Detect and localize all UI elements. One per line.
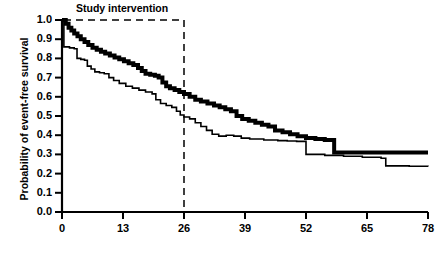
annotation-label: Study intervention — [76, 2, 168, 14]
x-tick-label: 39 — [230, 223, 260, 234]
y-tick-label: 0.6 — [22, 91, 52, 102]
kaplan-meier-chart: Probability of event-free survival 0.00.… — [0, 0, 442, 259]
y-tick-label: 0.8 — [22, 52, 52, 63]
annotation-layer — [62, 20, 184, 212]
y-tick-label: 0.9 — [22, 33, 52, 44]
y-tick-label: 0.0 — [22, 206, 52, 217]
plot-area — [0, 0, 442, 259]
y-tick-label: 1.0 — [22, 14, 52, 25]
x-tick-label: 0 — [47, 223, 77, 234]
x-tick-label: 65 — [352, 223, 382, 234]
x-tick-label: 13 — [108, 223, 138, 234]
y-tick-label: 0.3 — [22, 148, 52, 159]
y-tick-label: 0.2 — [22, 168, 52, 179]
y-tick-label: 0.5 — [22, 110, 52, 121]
series-line-thin-curve — [62, 20, 428, 166]
x-tick-label: 26 — [169, 223, 199, 234]
series-layer — [62, 20, 428, 166]
y-tick-label: 0.4 — [22, 129, 52, 140]
annotation-bracket — [62, 20, 184, 212]
y-tick-label: 0.1 — [22, 187, 52, 198]
y-tick-label: 0.7 — [22, 72, 52, 83]
x-tick-label: 52 — [291, 223, 321, 234]
series-line-thick-curve — [62, 20, 428, 152]
x-tick-label: 78 — [413, 223, 442, 234]
